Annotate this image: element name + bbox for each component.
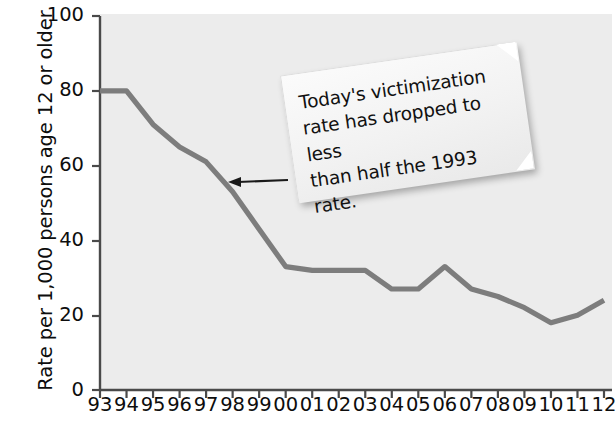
- x-axis-tick-labels: 9394959697989900010203040506070809101112: [0, 394, 616, 427]
- chart-container: Rate per 1,000 persons age 12 or older 1…: [0, 0, 616, 427]
- callout-leader-line: [228, 177, 288, 187]
- x-tick-label-12: 12: [584, 394, 616, 415]
- chart-svg: [0, 0, 616, 427]
